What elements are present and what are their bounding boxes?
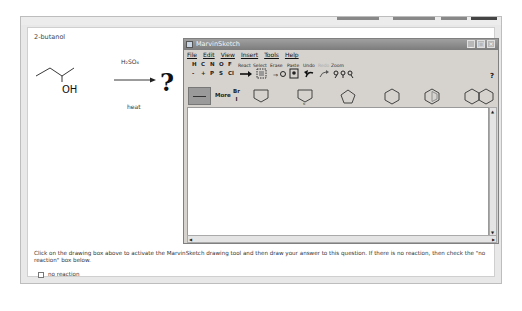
charge-minus[interactable]: - [192, 70, 201, 76]
tool-icons: ⇒ [238, 68, 368, 80]
menu-help[interactable]: Help [285, 50, 299, 59]
atom-row-2: -+PSCl [192, 70, 236, 76]
atom-br-i-buttons: Br I [233, 87, 240, 103]
product-unknown: ? [160, 68, 174, 97]
question-card: 2-butanol OH H₂SO₄ heat ? MarvinSketch _… [27, 27, 495, 277]
marvin-app-icon [186, 41, 193, 48]
atom-s[interactable]: S [219, 70, 228, 76]
single-bond-button[interactable] [188, 87, 211, 105]
menu-insert[interactable]: Insert [241, 50, 258, 59]
scroll-right-icon[interactable]: ▶ [492, 237, 495, 242]
scroll-up-icon[interactable]: ▲ [491, 109, 494, 114]
atom-br[interactable]: Br [233, 87, 240, 95]
charge-plus[interactable]: + [201, 70, 210, 76]
reagent-heat: heat [127, 103, 141, 110]
svg-text:⇒: ⇒ [273, 71, 278, 78]
undo-icon [304, 70, 313, 77]
atom-n[interactable]: N [210, 61, 219, 67]
more-atoms-button[interactable]: More [215, 92, 231, 98]
menu-edit[interactable]: Edit [203, 50, 215, 59]
help-button[interactable]: ? [490, 72, 494, 80]
tab-strip-3[interactable] [441, 17, 467, 20]
minimize-icon[interactable]: _ [467, 40, 475, 48]
atom-h[interactable]: H [192, 61, 201, 67]
marvin-menubar: File Edit View Insert Tools Help [184, 50, 498, 59]
react-arrow-icon [240, 71, 252, 77]
oh-label: OH [62, 84, 77, 95]
drawing-canvas[interactable] [187, 107, 489, 237]
marvin-titlebar[interactable]: MarvinSketch _ □ × [184, 39, 498, 50]
maximize-icon[interactable]: □ [477, 40, 485, 48]
close-icon[interactable]: × [487, 40, 495, 48]
template-shield-n-icon [298, 90, 312, 102]
scroll-left-icon[interactable]: ◀ [189, 237, 192, 242]
erase-icon: ⇒ [273, 71, 286, 78]
zoom-icons [334, 71, 353, 78]
atom-f[interactable]: F [228, 61, 236, 67]
atom-cl[interactable]: Cl [228, 70, 236, 76]
select-icon [257, 69, 266, 78]
cyclopentane-icon [341, 90, 355, 103]
menu-tools[interactable]: Tools [264, 50, 279, 59]
instructions-text: Click on the drawing box above to activa… [34, 250, 490, 264]
tab-strip-2[interactable] [393, 17, 435, 20]
naphthalene-icon [465, 89, 479, 104]
template-shield-icon [254, 90, 268, 102]
reagent-h2so4: H₂SO₄ [121, 58, 139, 65]
atom-row-1: HCNOF [192, 61, 236, 67]
horizontal-scrollbar[interactable]: ◀ ▶ [187, 235, 497, 243]
butanol-skeleton [36, 68, 74, 76]
redo-icon [320, 70, 329, 77]
no-reaction-checkbox[interactable] [38, 272, 44, 278]
no-reaction-label: no reaction [48, 271, 80, 277]
menu-file[interactable]: File [187, 50, 197, 59]
vertical-scrollbar[interactable]: ▲ ▼ [489, 107, 497, 237]
atom-i[interactable]: I [233, 95, 240, 103]
atom-c[interactable]: C [201, 61, 210, 67]
cyclohexane-icon [385, 89, 399, 104]
marvinsketch-window[interactable]: MarvinSketch _ □ × File Edit View Insert… [183, 38, 499, 244]
paste-icon [290, 69, 298, 78]
marvin-title: MarvinSketch [196, 40, 240, 48]
tab-strip-4[interactable] [471, 17, 497, 20]
atom-p[interactable]: P [210, 70, 219, 76]
menu-view[interactable]: View [221, 50, 235, 59]
question-panel: 2-butanol OH H₂SO₄ heat ? MarvinSketch _… [20, 16, 502, 284]
template-toolbar: N [248, 87, 498, 107]
svg-text:N: N [303, 102, 305, 106]
atom-o[interactable]: O [219, 61, 228, 67]
tab-strip-1[interactable] [337, 17, 379, 20]
